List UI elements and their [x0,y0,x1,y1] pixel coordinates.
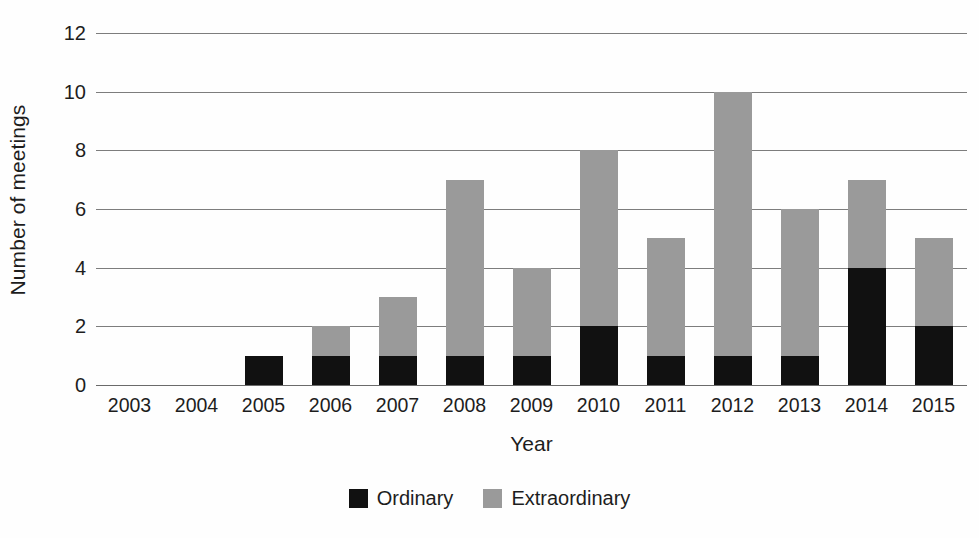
legend-swatch-icon [483,489,502,508]
bar-stack [178,33,216,385]
bar-segment-ordinary[interactable] [848,268,886,385]
bar-segment-extraordinary[interactable] [647,238,685,355]
bar-stack [111,33,149,385]
bar-stack [714,33,752,385]
bars-layer [96,33,967,385]
x-axis-tick-label: 2003 [96,390,163,420]
bar-segment-extraordinary[interactable] [781,209,819,356]
bar-slot-2015[interactable] [900,33,967,385]
y-axis-tick-label: 6 [40,199,86,219]
legend-item[interactable]: Ordinary [349,488,454,508]
bar-segment-ordinary[interactable] [647,356,685,385]
bar-segment-ordinary[interactable] [245,356,283,385]
bar-stack [379,33,417,385]
bar-stack [781,33,819,385]
legend-item[interactable]: Extraordinary [483,488,630,508]
bar-segment-extraordinary[interactable] [714,92,752,356]
y-axis-tick-label: 0 [40,375,86,395]
y-axis-tick-label: 8 [40,140,86,160]
bar-segment-ordinary[interactable] [379,356,417,385]
x-axis-tick-label: 2009 [498,390,565,420]
x-axis-tick-label: 2010 [565,390,632,420]
x-axis-tick-label: 2011 [632,390,699,420]
bar-stack [848,33,886,385]
bar-slot-2003[interactable] [96,33,163,385]
bar-stack [245,33,283,385]
bar-slot-2005[interactable] [230,33,297,385]
y-axis-tick-label: 2 [40,316,86,336]
chart-legend: OrdinaryExtraordinary [0,488,979,508]
bar-stack [513,33,551,385]
bar-segment-extraordinary[interactable] [312,326,350,355]
bar-segment-extraordinary[interactable] [379,297,417,356]
bar-slot-2012[interactable] [699,33,766,385]
bar-segment-ordinary[interactable] [714,356,752,385]
bar-segment-extraordinary[interactable] [580,150,618,326]
y-axis-tick-labels: 024681012 [40,0,86,400]
x-axis-tick-label: 2008 [431,390,498,420]
x-axis-title: Year [96,432,967,456]
bar-slot-2013[interactable] [766,33,833,385]
x-axis-tick-label: 2013 [766,390,833,420]
x-axis-tick-label: 2005 [230,390,297,420]
bar-segment-ordinary[interactable] [446,356,484,385]
x-axis-tick-label: 2014 [833,390,900,420]
bar-slot-2007[interactable] [364,33,431,385]
bar-segment-ordinary[interactable] [781,356,819,385]
bar-slot-2008[interactable] [431,33,498,385]
bar-stack [312,33,350,385]
legend-label: Extraordinary [511,488,630,508]
bar-stack [446,33,484,385]
gridline [96,385,967,386]
y-axis-title: Number of meetings [0,0,36,400]
y-axis-title-text: Number of meetings [6,105,30,296]
bar-segment-ordinary[interactable] [513,356,551,385]
x-axis-tick-label: 2012 [699,390,766,420]
bar-slot-2006[interactable] [297,33,364,385]
bar-slot-2004[interactable] [163,33,230,385]
bar-segment-ordinary[interactable] [580,326,618,385]
bar-segment-extraordinary[interactable] [915,238,953,326]
plot-area [96,33,967,385]
x-axis-tick-label: 2004 [163,390,230,420]
bar-slot-2014[interactable] [833,33,900,385]
x-axis-tick-label: 2007 [364,390,431,420]
x-axis-tick-labels: 2003200420052006200720082009201020112012… [96,390,967,420]
y-axis-tick-label: 10 [40,82,86,102]
bar-stack [580,33,618,385]
y-axis-tick-label: 4 [40,258,86,278]
bar-segment-ordinary[interactable] [915,326,953,385]
bar-slot-2011[interactable] [632,33,699,385]
bar-stack [647,33,685,385]
bar-slot-2010[interactable] [565,33,632,385]
bar-stack [915,33,953,385]
bar-segment-extraordinary[interactable] [446,180,484,356]
x-axis-tick-label: 2015 [900,390,967,420]
bar-slot-2009[interactable] [498,33,565,385]
legend-label: Ordinary [377,488,454,508]
legend-swatch-icon [349,489,368,508]
bar-segment-ordinary[interactable] [312,356,350,385]
y-axis-tick-label: 12 [40,23,86,43]
x-axis-tick-label: 2006 [297,390,364,420]
bar-segment-extraordinary[interactable] [848,180,886,268]
bar-chart: Number of meetings 024681012 20032004200… [0,0,979,538]
bar-segment-extraordinary[interactable] [513,268,551,356]
